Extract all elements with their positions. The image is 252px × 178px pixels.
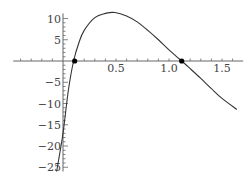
y-tick-label: −10: [38, 98, 61, 111]
y-tick-label: −20: [38, 140, 61, 153]
x-tick-label: 1.5: [213, 62, 231, 75]
y-tick-label: 10: [47, 13, 61, 26]
y-axis: 105−5−10−15−20−25: [38, 13, 68, 175]
y-tick-label: 5: [54, 34, 61, 47]
function-plot: 0.51.01.5 105−5−10−15−20−25: [0, 0, 252, 178]
x-tick-label: 0.5: [107, 62, 125, 75]
root-point: [72, 58, 77, 63]
function-curve: [57, 12, 237, 171]
y-tick-label: −5: [45, 76, 61, 89]
x-axis: 0.51.01.5: [13, 59, 243, 76]
y-tick-label: −15: [38, 119, 61, 132]
x-tick-label: 1.0: [160, 62, 178, 75]
root-point: [179, 58, 184, 63]
